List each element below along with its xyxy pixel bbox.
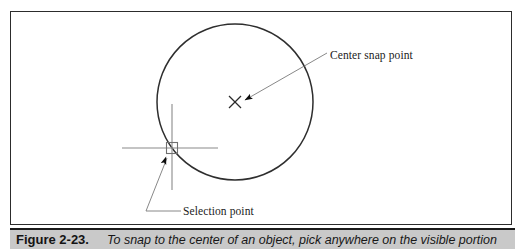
- figure-screenshot: Center snap point Selection point Figure…: [0, 0, 530, 249]
- figure-caption-number: Figure 2-23.: [16, 232, 89, 247]
- label-selection-point: Selection point: [183, 206, 254, 218]
- figure-caption-text: To snap to the center of an object, pick…: [107, 233, 497, 247]
- figure-caption-bar: Figure 2-23. To snap to the center of an…: [10, 228, 515, 249]
- figure-frame: [10, 11, 512, 225]
- label-center-snap-point: Center snap point: [330, 50, 413, 62]
